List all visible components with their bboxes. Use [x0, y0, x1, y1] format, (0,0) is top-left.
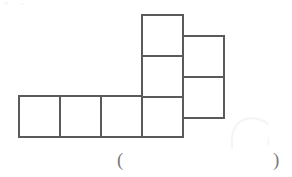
- answer-row: ( ): [0, 147, 292, 173]
- net-square-middle-mid: [142, 56, 183, 97]
- net-square-bottom-2: [60, 96, 101, 137]
- net-square-right-top: [183, 36, 224, 77]
- answer-open-paren: (: [117, 147, 123, 173]
- net-square-middle-top: [142, 15, 183, 56]
- answer-close-paren: ): [273, 147, 279, 173]
- scan-artifact-smudge: [232, 118, 269, 148]
- net-square-right-bottom: [183, 77, 224, 118]
- worksheet-page: ( ): [0, 0, 292, 177]
- net-squares-group: [19, 15, 224, 137]
- answer-blank[interactable]: [128, 147, 270, 173]
- net-square-bottom-4: [142, 96, 183, 137]
- net-square-bottom-3: [101, 96, 142, 137]
- net-square-bottom-1: [19, 96, 60, 137]
- scan-artifact-specks: [4, 2, 24, 5]
